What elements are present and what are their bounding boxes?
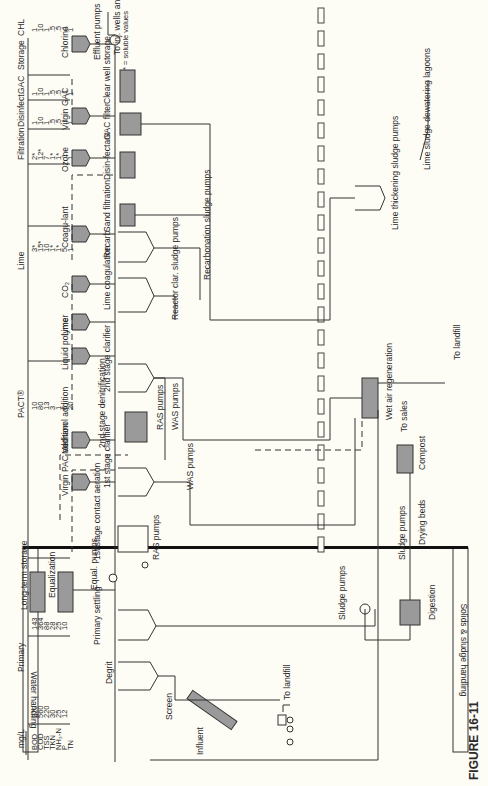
- stage-chl: CHL: [16, 19, 26, 36]
- svg-text:To sales: To sales: [399, 401, 409, 432]
- svg-text:Lime thickening sludge pumps: Lime thickening sludge pumps: [390, 116, 400, 230]
- stage-gac: GAC: [16, 76, 26, 94]
- chemical-label: CO₂: [60, 282, 70, 298]
- separator-segment: [318, 514, 324, 529]
- chemical-label: Lime: [60, 317, 70, 336]
- stage-lime: Lime: [16, 251, 26, 270]
- svg-text:2nd stage clarifier: 2nd stage clarifier: [102, 325, 112, 392]
- svg-text:To inj. wells and to indust.: To inj. wells and to indust.: [112, 0, 122, 55]
- solids-handling-label: Solids & sludge handling: [459, 603, 469, 696]
- sand-filtration: Sand filtration: [102, 180, 135, 232]
- chemical-feed-icon: [72, 36, 90, 52]
- svg-text:Long-term storage: Long-term storage: [19, 540, 29, 610]
- chemical-feed-icon: [72, 108, 90, 124]
- table-cell: 12: [60, 710, 69, 718]
- stage-primary: Primary: [16, 642, 26, 672]
- separator-segment: [318, 399, 324, 414]
- stage-disinfect: Disinfect.: [16, 92, 26, 127]
- svg-text:Lime sludge dewatering lagoons: Lime sludge dewatering lagoons: [422, 48, 432, 170]
- process-flow-diagram: Water handling Solids & sludge handling …: [0, 0, 488, 786]
- separator-segment: [318, 77, 324, 92]
- chemical-label: Chlorine: [60, 26, 70, 58]
- chemical-label: Methanol addition: [60, 387, 70, 454]
- chemical-label: Ozone: [60, 147, 70, 172]
- chemical-feed-icon: [72, 150, 90, 166]
- lime-thickening: Lime thickening sludge pumps Lime sludge…: [355, 48, 432, 230]
- table-cell: 10: [60, 622, 69, 630]
- stage-storage: Storage: [16, 40, 26, 70]
- wet-air-regeneration: Wet air regeneration To landfill: [362, 324, 462, 420]
- svg-text:Compost: Compost: [417, 435, 427, 470]
- drying-beds: Drying beds Sludge pumps: [397, 500, 427, 560]
- chemical-feed-icon: [72, 314, 90, 330]
- recarb: Recarb Recarbonation sludge pumps: [102, 169, 212, 280]
- degrit-tank: Degrit: [104, 661, 158, 690]
- svg-text:RAS pumps: RAS pumps: [151, 515, 161, 560]
- chemical-feed-icon: [72, 432, 90, 448]
- svg-text:Wet air regeneration: Wet air regeneration: [384, 343, 394, 420]
- separator-segment: [318, 468, 324, 483]
- separator-segment: [318, 192, 324, 207]
- svg-text:Effluent pumps: Effluent pumps: [92, 3, 102, 60]
- separator-segment: [318, 215, 324, 230]
- svg-text:Sludge pumps: Sludge pumps: [397, 506, 407, 560]
- separator-segment: [318, 238, 324, 253]
- svg-text:Primary settling: Primary settling: [92, 586, 102, 645]
- separator-segment: [318, 169, 324, 184]
- svg-text:To landfill: To landfill: [282, 664, 292, 700]
- chemical-feed-icon: [72, 226, 90, 242]
- separator-segment: [318, 8, 324, 23]
- svg-text:Recarb: Recarb: [102, 230, 112, 258]
- gac-filter: GAC filter: [102, 103, 141, 140]
- figure-label: FIGURE 16-11: [467, 701, 481, 780]
- chemical-label: Coagu-lant: [60, 206, 70, 248]
- svg-text:Sludge pumps: Sludge pumps: [337, 566, 347, 620]
- svg-text:1st stage contact aeration: 1st stage contact aeration: [92, 462, 102, 560]
- separator: [318, 8, 324, 552]
- svg-text:To landfill: To landfill: [452, 324, 462, 360]
- svg-text:Digestion: Digestion: [427, 584, 437, 620]
- water-handling-label: Water handling: [29, 672, 39, 729]
- chemical-feed-icon: [72, 348, 90, 364]
- chemical-feed-icon: [72, 474, 90, 490]
- svg-text:Influent: Influent: [195, 726, 205, 755]
- separator-segment: [318, 376, 324, 391]
- svg-text:Drying beds: Drying beds: [417, 500, 427, 545]
- svg-text:Equalization: Equalization: [47, 551, 57, 598]
- separator-segment: [318, 330, 324, 345]
- separator-segment: [318, 284, 324, 299]
- chemical-label: Virgin GAC: [60, 88, 70, 130]
- separator-segment: [318, 422, 324, 437]
- compost: Compost To sales: [397, 401, 427, 473]
- svg-text:Sand filtration: Sand filtration: [102, 180, 112, 232]
- first-stage-clarifier: 1st stage clarifier WAS pumps: [102, 424, 195, 496]
- svg-text:RAS pumps: RAS pumps: [155, 385, 165, 430]
- parameter-label: TN: [66, 740, 75, 750]
- separator-segment: [318, 31, 324, 46]
- primary-settling-tank: Primary settling Primary settling: [92, 586, 156, 645]
- digestion: Digestion Sludge pumps: [337, 566, 437, 625]
- separator-segment: [318, 537, 324, 552]
- separator-segment: [318, 100, 324, 115]
- footnote: * = soluble values: [121, 11, 130, 70]
- separator-segment: [318, 491, 324, 506]
- second-stage-clarifier: 2nd stage clarifier: [102, 325, 154, 392]
- separator-segment: [318, 123, 324, 138]
- stage-filtration: Filtration: [16, 127, 26, 160]
- separator-segment: [318, 353, 324, 368]
- stage-pact: PACT®: [16, 389, 26, 418]
- separator-segment: [318, 261, 324, 276]
- svg-text:GAC filter: GAC filter: [102, 103, 112, 140]
- svg-text:Degrit: Degrit: [104, 661, 114, 684]
- svg-text:Screen: Screen: [164, 693, 174, 720]
- units-label: mg/L: [16, 729, 26, 748]
- connections: [60, 78, 410, 760]
- separator-segment: [318, 146, 324, 161]
- svg-text:Clear well storage: Clear well storage: [102, 36, 112, 104]
- landfill-truck-1: To landfill: [158, 664, 293, 745]
- chemical-feed-icon: [72, 276, 90, 292]
- separator-segment: [318, 54, 324, 69]
- separator-segment: [318, 445, 324, 460]
- svg-text:WAS pumps: WAS pumps: [170, 383, 180, 430]
